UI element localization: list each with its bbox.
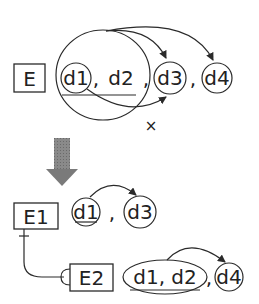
- fd-arrow-d1d2-to-d3: [106, 30, 166, 58]
- entity-e-label: E: [23, 67, 36, 91]
- attr-d3: d3: [157, 66, 182, 90]
- partial-fd-arrow-d1-to-d3: [87, 89, 166, 107]
- entity-e2-label: E2: [79, 266, 104, 290]
- invalid-marker: ×: [145, 117, 158, 135]
- relationship-line: [24, 229, 64, 277]
- separator: ,: [143, 67, 149, 91]
- normalization-diagram: E d1 , d2 , d3 , d4 × E1 d1: [0, 0, 259, 304]
- attr-d1: d1: [63, 66, 88, 90]
- e1-fd-arrow-d1-to-d3: [90, 185, 136, 197]
- e2-fd-arrow-d1d2-to-d4: [167, 248, 225, 262]
- before-section: E d1 , d2 , d3 , d4 ×: [14, 27, 232, 135]
- attr-d2: d2: [108, 66, 133, 90]
- after-section: E1 d1 , d3 E2 d1, d2 , d4: [14, 185, 243, 294]
- separator: ,: [206, 266, 212, 290]
- e1-attr-d1: d1: [73, 200, 98, 224]
- separator: ,: [93, 67, 99, 91]
- e2-attr-d1-d2: d1, d2: [133, 265, 197, 289]
- e2-attr-d4: d4: [216, 265, 241, 289]
- separator: ,: [109, 201, 115, 225]
- entity-e1-label: E1: [23, 205, 48, 229]
- attr-d4: d4: [204, 66, 229, 90]
- transform-arrow: [46, 138, 78, 186]
- separator: ,: [190, 67, 196, 91]
- e1-attr-d3: d3: [127, 200, 152, 224]
- fd-arrow-d1d2-to-d4: [106, 27, 213, 60]
